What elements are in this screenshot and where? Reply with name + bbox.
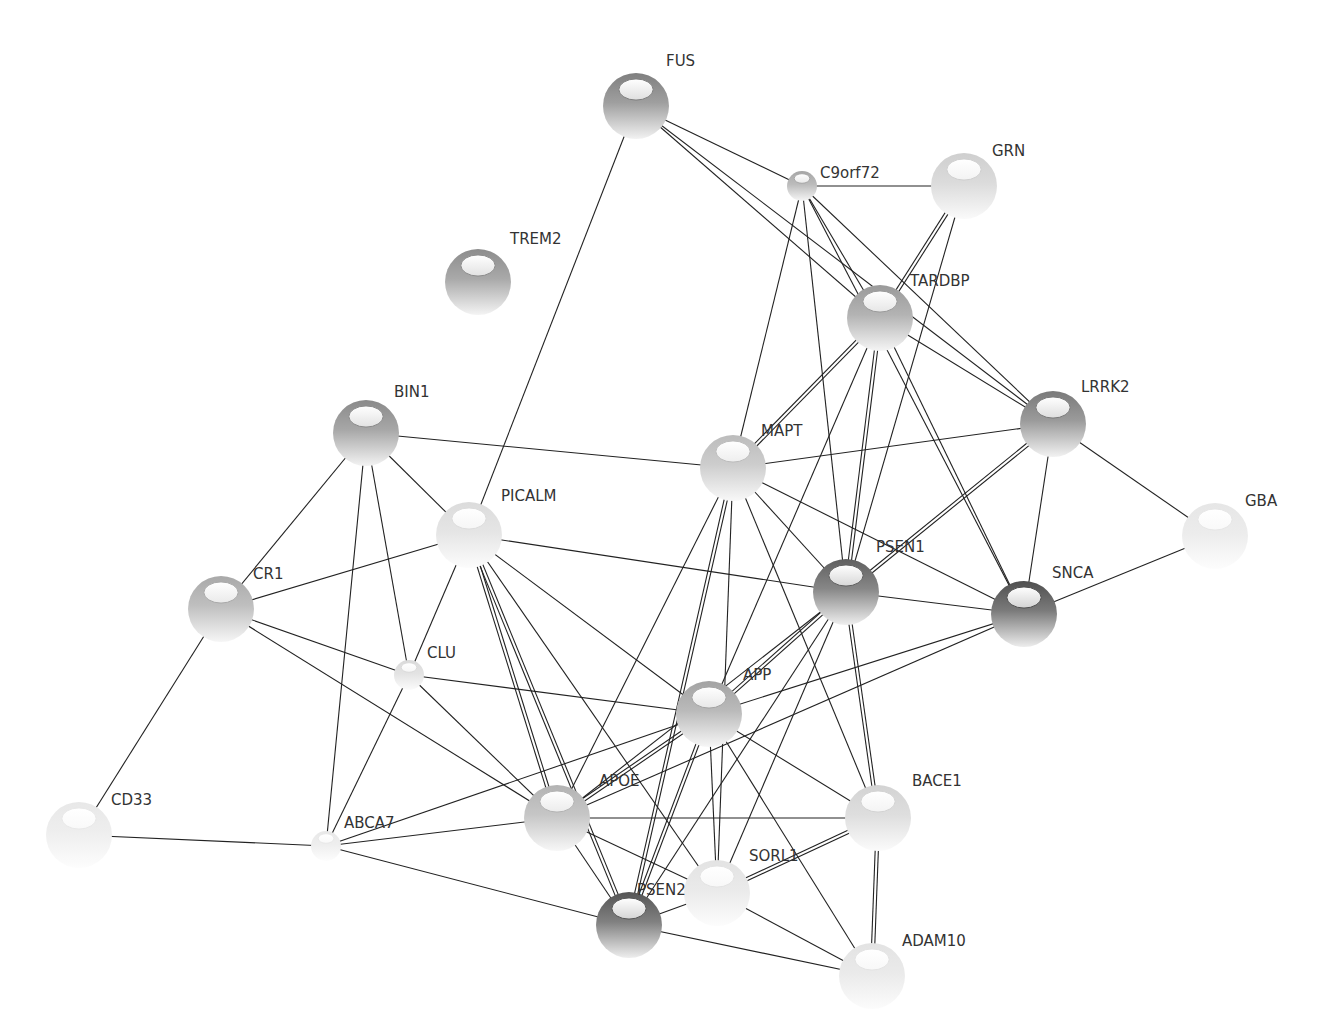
node-psen1[interactable]: PSEN1 [813,538,925,625]
node-label: TREM2 [509,230,562,248]
network-diagram: FUSC9orf72GRNTREM2TARDBPBIN1MAPTLRRK2PIC… [0,0,1334,1031]
node-apoe[interactable]: APOE [524,772,640,851]
node-adam10[interactable]: ADAM10 [839,932,966,1009]
edge-fus-lrrk2 [636,106,1053,424]
edge-fus-picalm [469,106,636,535]
node-highlight [204,582,238,603]
node-label: MAPT [761,422,803,440]
node-tardbp[interactable]: TARDBP [847,272,970,351]
node-highlight [452,508,486,529]
node-highlight [861,791,895,812]
edge-mapt-sorl1 [717,468,733,893]
node-highlight [62,808,96,829]
edge-psen1-bace1-2 [844,592,876,818]
edge-bin1-abca7 [326,433,366,846]
node-label: BACE1 [912,772,962,790]
edge-mapt-apoe [557,468,733,818]
node-label: TARDBP [909,272,970,290]
node-highlight [794,174,810,184]
node-highlight [318,834,334,844]
node-highlight [612,898,646,919]
node-label: GBA [1245,492,1278,510]
node-clu[interactable]: CLU [394,644,456,690]
edge-lrrk2-psen1-1 [847,425,1054,593]
node-highlight [855,949,889,970]
node-highlight [401,663,417,673]
node-label: SNCA [1052,564,1094,582]
node-snca[interactable]: SNCA [991,564,1094,647]
node-label: SORL1 [749,847,799,865]
node-label: LRRK2 [1081,378,1130,396]
node-mapt[interactable]: MAPT [700,422,803,501]
node-highlight [692,687,726,708]
edge-app-adam10 [709,714,872,976]
edge-psen2-adam10 [629,925,872,976]
edge-cr1-apoe [221,609,557,818]
node-label: ABCA7 [344,814,395,832]
node-c9orf72[interactable]: C9orf72 [787,164,880,201]
node-cr1[interactable]: CR1 [188,565,283,642]
node-highlight [461,255,495,276]
node-highlight [1036,397,1070,418]
node-label: APOE [599,772,640,790]
node-label: APP [743,666,771,684]
node-label: PSEN1 [876,538,925,556]
edge-tardbp-psen1-2 [844,318,878,592]
node-app[interactable]: APP [676,666,771,747]
node-gba[interactable]: GBA [1182,492,1278,569]
edges-layer [79,106,1215,976]
edge-fus-tardbp [636,106,880,318]
node-label: GRN [992,142,1025,160]
node-bin1[interactable]: BIN1 [333,383,429,466]
node-label: PSEN2 [637,881,686,899]
node-highlight [540,791,574,812]
node-bace1[interactable]: BACE1 [845,772,962,851]
node-sorl1[interactable]: SORL1 [684,847,799,926]
node-trem2[interactable]: TREM2 [445,230,562,315]
node-grn[interactable]: GRN [931,142,1025,219]
node-highlight [716,441,750,462]
node-label: CLU [427,644,456,662]
node-label: C9orf72 [820,164,880,182]
node-fus[interactable]: FUS [603,52,695,139]
node-highlight [829,565,863,586]
node-lrrk2[interactable]: LRRK2 [1020,378,1130,457]
node-highlight [349,406,383,427]
nodes-layer: FUSC9orf72GRNTREM2TARDBPBIN1MAPTLRRK2PIC… [46,52,1278,1009]
node-label: BIN1 [394,383,429,401]
node-highlight [1007,587,1041,608]
node-label: CR1 [253,565,283,583]
node-highlight [1198,509,1232,530]
node-label: CD33 [111,791,152,809]
edge-bin1-cr1 [221,433,366,609]
edge-bin1-mapt [366,433,733,468]
edge-picalm-psen1 [469,535,846,592]
edge-cd33-abca7 [79,835,326,846]
node-psen2[interactable]: PSEN2 [596,881,686,958]
node-highlight [619,79,653,100]
edge-picalm-apoe-2 [467,535,555,818]
edge-c9orf72-lrrk2 [802,186,1053,424]
node-highlight [700,866,734,887]
node-label: ADAM10 [902,932,966,950]
edge-grn-psen1 [846,186,964,592]
node-highlight [947,159,981,180]
node-label: FUS [666,52,695,70]
edge-picalm-psen2-1 [470,534,630,924]
edge-picalm-apoe-1 [471,535,559,818]
node-abca7[interactable]: ABCA7 [311,814,395,861]
node-highlight [863,291,897,312]
edge-snca-app [709,614,1024,714]
node-label: PICALM [501,487,557,505]
